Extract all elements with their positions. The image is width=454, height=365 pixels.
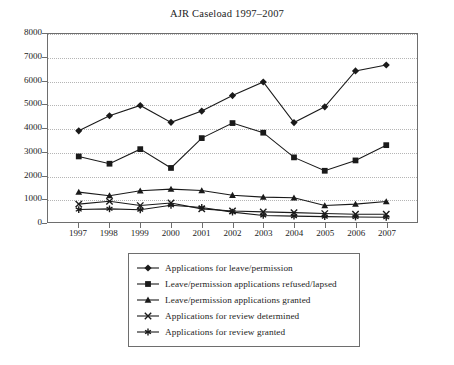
legend-marker-square-icon — [135, 277, 161, 291]
chart-title: AJR Caseload 1997–2007 — [0, 8, 454, 19]
data-point-square — [260, 130, 266, 136]
x-axis-tick-mark — [202, 223, 203, 228]
data-point-diamond — [167, 119, 174, 126]
data-point-square — [76, 154, 82, 160]
data-point-diamond — [137, 102, 144, 109]
x-axis-tick-label: 2004 — [285, 228, 303, 238]
x-axis-tick-mark — [78, 223, 79, 228]
x-axis-tick-mark — [294, 223, 295, 228]
data-point-square — [107, 161, 113, 167]
data-point-diamond — [198, 108, 205, 115]
x-axis-tick-label: 1999 — [131, 228, 149, 238]
data-point-triangle — [75, 189, 82, 195]
x-axis-tick-mark — [233, 223, 234, 228]
x-axis-tick-label: 2001 — [193, 228, 211, 238]
data-point-square — [291, 155, 297, 161]
legend-item-label: Leave/permission applications refused/la… — [161, 279, 337, 289]
legend-marker-cross-icon — [135, 309, 161, 323]
x-axis-tick-label: 2003 — [254, 228, 272, 238]
y-axis-tick-mark — [42, 128, 47, 129]
y-axis-tick-mark — [42, 33, 47, 34]
data-series-layer — [48, 34, 417, 222]
legend-item[interactable]: Applications for review determined — [135, 308, 351, 324]
legend-item-label: Applications for review granted — [161, 327, 285, 337]
legend-marker-asterisk-icon — [135, 325, 161, 339]
x-axis-tick-mark — [109, 223, 110, 228]
x-axis-tick-mark — [171, 223, 172, 228]
y-axis-tick-mark — [42, 81, 47, 82]
x-axis-tick-label: 2006 — [347, 228, 365, 238]
data-point-square — [230, 120, 236, 126]
x-axis-tick-label: 2002 — [224, 228, 242, 238]
x-axis-tick-label: 1997 — [69, 228, 87, 238]
legend-item[interactable]: Applications for review granted — [135, 324, 351, 340]
series-line — [79, 123, 387, 171]
data-point-square — [383, 142, 389, 148]
y-axis-tick-mark — [42, 104, 47, 105]
y-axis-tick-mark — [42, 223, 47, 224]
data-point-diamond — [229, 92, 236, 99]
data-point-square — [168, 165, 174, 171]
data-point-square — [353, 158, 359, 164]
data-point-square — [145, 281, 151, 287]
legend-item-label: Leave/permission applications granted — [161, 295, 311, 305]
y-axis-tick-label: 4000 — [0, 122, 42, 132]
x-axis-tick-mark — [387, 223, 388, 228]
data-point-square — [322, 168, 328, 174]
data-point-diamond — [106, 112, 113, 119]
y-axis-tick-label: 2000 — [0, 170, 42, 180]
x-axis-tick-mark — [356, 223, 357, 228]
x-axis-tick-mark — [140, 223, 141, 228]
x-axis-tick-label: 1998 — [100, 228, 118, 238]
x-axis-tick-mark — [325, 223, 326, 228]
y-axis-tick-label: 5000 — [0, 98, 42, 108]
legend-marker-triangle-icon — [135, 293, 161, 307]
y-axis-tick-mark — [42, 57, 47, 58]
data-point-square — [137, 146, 143, 152]
data-point-diamond — [75, 127, 82, 134]
legend-item[interactable]: Leave/permission applications refused/la… — [135, 276, 351, 292]
legend-item[interactable]: Applications for leave/permission — [135, 260, 351, 276]
x-axis-tick-label: 2007 — [378, 228, 396, 238]
chart-legend: Applications for leave/permissionLeave/p… — [128, 253, 360, 347]
x-axis-tick-mark — [263, 223, 264, 228]
plot-area — [47, 33, 418, 223]
data-point-diamond — [383, 61, 390, 68]
series-3 — [75, 186, 389, 209]
x-axis-tick-label: 2005 — [316, 228, 334, 238]
data-point-square — [199, 135, 205, 141]
y-axis-tick-mark — [42, 152, 47, 153]
y-axis-tick-mark — [42, 176, 47, 177]
legend-item-label: Applications for leave/permission — [161, 263, 293, 273]
x-axis-tick-label: 2000 — [162, 228, 180, 238]
y-axis-tick-mark — [42, 199, 47, 200]
series-2 — [76, 120, 389, 173]
chart-figure: AJR Caseload 1997–2007 Applications for … — [0, 0, 454, 365]
legend-marker-diamond-icon — [135, 261, 161, 275]
y-axis-tick-label: 1000 — [0, 193, 42, 203]
y-axis-tick-label: 8000 — [0, 27, 42, 37]
legend-item[interactable]: Leave/permission applications granted — [135, 292, 351, 308]
y-axis-tick-label: 3000 — [0, 146, 42, 156]
y-axis-tick-label: 0 — [0, 217, 42, 227]
data-point-diamond — [144, 264, 151, 271]
y-axis-tick-label: 6000 — [0, 75, 42, 85]
y-axis-tick-label: 7000 — [0, 51, 42, 61]
legend-item-label: Applications for review determined — [161, 311, 299, 321]
